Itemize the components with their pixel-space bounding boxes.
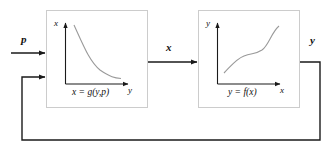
block-f-y-axis-label: y	[206, 19, 210, 28]
block-g-y-axis-label: x	[54, 19, 58, 28]
block-g-equation: x = g(y,p)	[72, 88, 109, 98]
label-input-p: p	[21, 34, 27, 45]
block-f-equation: y = f(x)	[228, 88, 257, 98]
diagram-canvas	[0, 0, 332, 149]
block-g-x-axis-label: y	[128, 86, 132, 95]
label-output-y: y	[310, 35, 315, 46]
label-signal-x: x	[166, 42, 172, 53]
block-f-x-axis-label: x	[280, 86, 284, 95]
block-diagram: p x y x y x = g(y,p) y x y = f(x)	[0, 0, 332, 149]
